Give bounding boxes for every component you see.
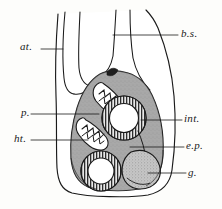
label-at: at. xyxy=(20,41,32,52)
label-ht: ht. xyxy=(14,133,26,144)
gland-mass xyxy=(122,150,160,189)
label-bs: b.s. xyxy=(181,28,197,39)
anatomical-figure: at. b.s. p. ht. int. e.p. g. xyxy=(0,0,222,209)
label-p: p. xyxy=(21,107,30,118)
label-ep: e.p. xyxy=(186,140,203,151)
label-g: g. xyxy=(188,167,197,178)
label-int: int. xyxy=(184,113,200,124)
